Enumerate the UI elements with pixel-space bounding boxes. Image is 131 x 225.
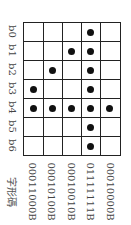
matrix-dot: [87, 124, 94, 131]
bit-label-b3: b3: [3, 79, 21, 98]
matrix-dot: [87, 48, 94, 55]
matrix-dot: [49, 67, 56, 74]
glyph-code-header: 字形碼: [3, 158, 21, 224]
code-text: 01111111B: [85, 162, 96, 220]
bit-label-b5: b5: [3, 117, 21, 136]
matrix-dot: [87, 29, 94, 36]
matrix-dot: [30, 86, 37, 93]
grid-divider: [24, 98, 120, 99]
code-text: 00011000B: [27, 162, 38, 220]
matrix-dot: [68, 48, 75, 55]
grid-divider: [24, 117, 120, 118]
bit-label-text: b6: [6, 139, 17, 152]
bit-label-b6: b6: [3, 136, 21, 155]
code-text: 00010100B: [46, 162, 57, 220]
code-label: 00010010B: [62, 158, 81, 224]
bit-label-text: b3: [6, 82, 17, 95]
code-text: 00010010B: [66, 162, 77, 220]
code-label: 00010100B: [42, 158, 61, 224]
bit-label-text: b2: [6, 63, 17, 76]
bit-label-text: b5: [6, 120, 17, 133]
bit-label-b4: b4: [3, 98, 21, 117]
grid-divider: [24, 79, 120, 80]
bit-label-text: b1: [6, 44, 17, 57]
matrix-dot: [106, 105, 113, 112]
grid-divider: [24, 136, 120, 137]
matrix-dot: [87, 143, 94, 150]
bit-label-b1: b1: [3, 41, 21, 60]
header-text: 字形碼: [5, 176, 20, 206]
code-label: 01111111B: [81, 158, 100, 224]
code-label: 00010000B: [101, 158, 120, 224]
dot-matrix-grid: [23, 22, 121, 156]
matrix-dot: [49, 105, 56, 112]
matrix-dot: [87, 105, 94, 112]
matrix-dot: [30, 105, 37, 112]
matrix-dot: [87, 86, 94, 93]
bit-label-b2: b2: [3, 60, 21, 79]
code-text: 00010000B: [105, 162, 116, 220]
bit-label-b0: b0: [3, 22, 21, 41]
matrix-dot: [87, 67, 94, 74]
grid-divider: [24, 60, 120, 61]
bit-label-text: b4: [6, 101, 17, 114]
grid-divider: [24, 41, 120, 42]
bit-label-text: b0: [6, 25, 17, 38]
matrix-dot: [68, 105, 75, 112]
code-label: 00011000B: [23, 158, 42, 224]
